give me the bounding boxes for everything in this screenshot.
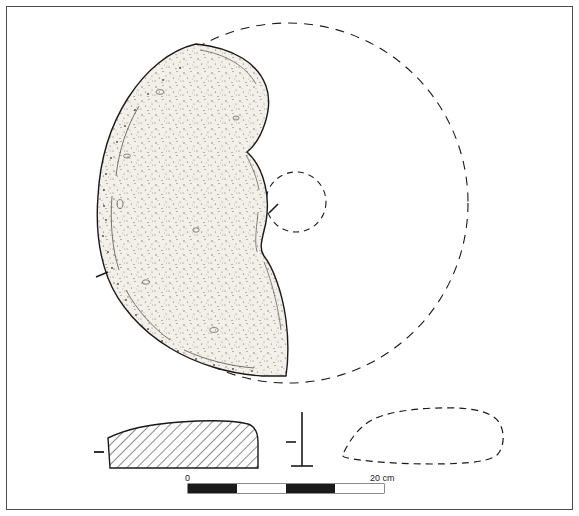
profile-outline xyxy=(108,421,258,468)
fragment-outline xyxy=(97,44,288,376)
scale-bar-segment-4 xyxy=(335,484,384,493)
figure-border xyxy=(7,7,573,510)
scale-bar-segment-3 xyxy=(286,484,335,493)
central-perforation-circle xyxy=(266,172,326,232)
scale-bar-max-label: 20 cm xyxy=(370,473,395,483)
figure-root: 0 20 cm xyxy=(0,0,579,516)
section-axis-marker xyxy=(286,412,313,466)
profile-section xyxy=(108,421,258,468)
reconstructed-profile-outline xyxy=(342,408,503,464)
scale-bar-min-label: 0 xyxy=(185,473,190,483)
section-tick-center xyxy=(269,204,278,213)
artifact-fragment xyxy=(97,44,288,376)
artifact-drawing-svg xyxy=(0,0,579,516)
scale-bar-segment-2 xyxy=(237,484,286,493)
scale-bar-segment-1 xyxy=(188,484,237,493)
scale-bar xyxy=(188,484,384,493)
